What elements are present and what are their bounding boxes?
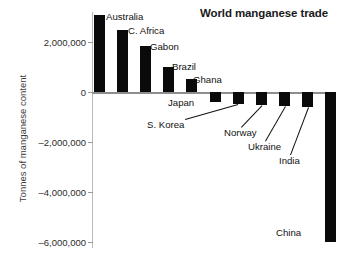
label-australia: Australia xyxy=(106,12,143,22)
label-japan: Japan xyxy=(168,98,194,108)
bar-c-africa xyxy=(117,30,128,93)
y-tick-mark xyxy=(88,242,93,243)
label-ghana: Ghana xyxy=(193,75,222,85)
plot-area: 2,000,0000–2,000,000–4,000,000–6,000,000 xyxy=(92,8,335,248)
leader-line-ukraine xyxy=(265,107,286,142)
y-tick-mark xyxy=(88,192,93,193)
label-norway: Norway xyxy=(224,128,257,138)
bar-gabon xyxy=(140,46,151,93)
y-tick-label: –6,000,000 xyxy=(38,237,86,248)
manganese-trade-chart: World manganese trade Tonnes of manganes… xyxy=(0,0,337,259)
label-s-korea: S. Korea xyxy=(147,120,184,130)
leader-line-india xyxy=(290,108,309,156)
y-tick-label: 0 xyxy=(81,87,86,98)
label-c-africa: C. Africa xyxy=(128,26,164,36)
bar-ukraine xyxy=(279,92,290,106)
leader-line-norway xyxy=(241,105,262,127)
label-ukraine: Ukraine xyxy=(248,142,281,152)
bar-india xyxy=(302,92,313,107)
y-tick-label: –4,000,000 xyxy=(38,187,86,198)
y-tick-mark xyxy=(88,92,93,93)
y-tick-mark xyxy=(88,142,93,143)
label-brazil: Brazil xyxy=(172,62,196,72)
y-tick-label: –2,000,000 xyxy=(38,137,86,148)
y-tick-label: 2,000,000 xyxy=(44,37,86,48)
bar-japan xyxy=(210,92,221,102)
bar-norway xyxy=(256,92,267,105)
label-china: China xyxy=(276,228,301,238)
label-india: India xyxy=(279,156,300,166)
y-tick-mark xyxy=(88,42,93,43)
label-gabon: Gabon xyxy=(150,42,179,52)
y-axis-title: Tonnes of manganese content xyxy=(17,39,28,239)
bar-s-korea xyxy=(233,92,244,104)
bar-australia xyxy=(94,15,105,93)
bar-china xyxy=(325,92,336,242)
y-axis-line xyxy=(92,12,93,248)
